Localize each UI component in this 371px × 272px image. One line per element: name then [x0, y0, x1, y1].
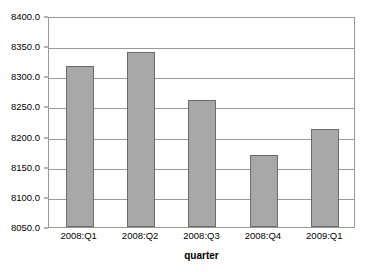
bar[interactable]	[127, 52, 155, 227]
y-tick-label: 8050.0	[11, 223, 40, 233]
y-tick-label: 8100.0	[11, 193, 40, 203]
x-axis: 2008:Q12008:Q22008:Q32008:Q42009:Q1	[48, 231, 355, 247]
bar[interactable]	[188, 100, 216, 227]
x-tick-label: 2008:Q2	[122, 231, 158, 241]
bar[interactable]	[250, 155, 278, 227]
bar-chart: 8400.08350.08300.08250.08200.08150.08100…	[0, 0, 371, 272]
y-tick-label: 8400.0	[11, 12, 40, 22]
x-tick-label: 2008:Q3	[183, 231, 219, 241]
bar-slot	[233, 18, 294, 227]
y-tick-label: 8300.0	[11, 73, 40, 83]
bar[interactable]	[311, 129, 339, 227]
y-tick-label: 8350.0	[11, 42, 40, 52]
x-tick-label: 2008:Q4	[245, 231, 281, 241]
y-tick-label: 8250.0	[11, 103, 40, 113]
bar-slot	[172, 18, 233, 227]
bars-group	[49, 18, 354, 227]
bar-slot	[110, 18, 171, 227]
bar[interactable]	[66, 66, 94, 227]
y-tick-label: 8150.0	[11, 163, 40, 173]
x-tick-label: 2008:Q1	[60, 231, 96, 241]
x-tick-label: 2009:Q1	[306, 231, 342, 241]
y-tick-label: 8200.0	[11, 133, 40, 143]
y-axis: 8400.08350.08300.08250.08200.08150.08100…	[0, 17, 44, 228]
plot-area	[48, 17, 355, 228]
x-axis-title: quarter	[48, 251, 355, 261]
bar-slot	[295, 18, 356, 227]
bar-slot	[49, 18, 110, 227]
